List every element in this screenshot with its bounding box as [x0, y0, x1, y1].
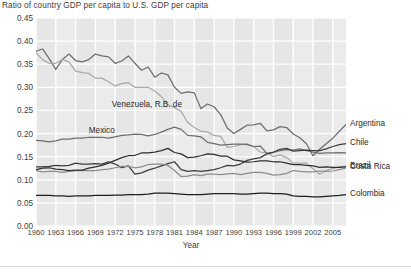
- y-tick-label: 0.30: [17, 83, 33, 92]
- x-tick-label: 1975: [126, 228, 143, 237]
- chart-title: Ratio of country GDP per capita to U.S. …: [2, 1, 208, 10]
- x-tick-label: 1981: [166, 228, 183, 237]
- x-tick-label: 1996: [265, 228, 282, 237]
- band: [234, 18, 254, 226]
- x-tick-label: 1990: [225, 228, 242, 237]
- chart-container: Ratio of country GDP per capita to U.S. …: [0, 0, 411, 272]
- y-tick-label: 0.25: [17, 106, 33, 115]
- y-axis: 0.000.050.100.150.200.250.300.350.400.45: [0, 18, 33, 226]
- band: [76, 18, 96, 226]
- x-tick-label: 1999: [285, 228, 302, 237]
- x-tick-label: 1963: [47, 228, 64, 237]
- y-tick-label: 0.20: [17, 129, 33, 138]
- y-tick-label: 0.10: [17, 175, 33, 184]
- plot-svg: [36, 18, 346, 226]
- y-tick-label: 0.05: [17, 198, 33, 207]
- series-label-chile: Chile: [350, 138, 369, 147]
- series-label-colombia: Colombia: [350, 189, 385, 198]
- x-tick-label: 2005: [324, 228, 341, 237]
- y-tick-label: 0.15: [17, 152, 33, 161]
- y-tick-label: 0.35: [17, 60, 33, 69]
- y-tick-label: 0.45: [17, 14, 33, 23]
- x-tick-label: 1984: [186, 228, 203, 237]
- series-label-argentina: Argentina: [350, 119, 385, 128]
- y-tick-label: 0.40: [17, 37, 33, 46]
- x-tick-label: 1969: [87, 228, 104, 237]
- band: [155, 18, 175, 226]
- footer-divider: [0, 266, 411, 267]
- x-axis-label: Year: [36, 241, 346, 250]
- x-tick-label: 1966: [67, 228, 84, 237]
- plot-area: [36, 18, 346, 226]
- series-label-brazil: Brazil: [350, 161, 370, 170]
- x-tick-label: 2002: [305, 228, 322, 237]
- x-tick-label: 1960: [28, 228, 45, 237]
- series-annotation: Venezuela, R.B. de: [112, 100, 182, 109]
- x-tick-label: 1993: [245, 228, 262, 237]
- band: [313, 18, 333, 226]
- x-tick-label: 1972: [107, 228, 124, 237]
- series-annotation: Mexico: [89, 126, 115, 135]
- x-tick-label: 1987: [206, 228, 223, 237]
- x-tick-label: 1978: [146, 228, 163, 237]
- band: [36, 18, 56, 226]
- x-axis: 1960196319661969197219751978198119841987…: [36, 228, 346, 240]
